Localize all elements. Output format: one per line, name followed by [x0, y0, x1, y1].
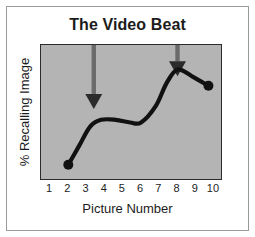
x-tick-label: 10: [207, 182, 219, 194]
arrow-head: [85, 94, 102, 109]
data-line: [68, 69, 208, 164]
x-tick-label: 9: [192, 182, 198, 194]
y-axis-label: % Recalling Image: [17, 58, 32, 166]
x-tick-label: 2: [64, 182, 70, 194]
x-tick-label: 5: [119, 182, 125, 194]
x-tick-label: 3: [82, 182, 88, 194]
arrow-shaft: [175, 45, 179, 61]
data-point-marker: [63, 160, 73, 170]
data-line-group: [63, 69, 213, 169]
chart-figure: The Video Beat % Recalling Image 1234567…: [0, 0, 255, 237]
data-point-marker: [203, 81, 213, 91]
x-tick-label: 6: [137, 182, 143, 194]
plot-area: [40, 44, 222, 180]
y-axis-label-container: % Recalling Image: [14, 44, 34, 180]
x-axis-tick-labels: 12345678910: [40, 182, 222, 198]
x-tick-label: 8: [173, 182, 179, 194]
arrow-shaft: [92, 45, 96, 94]
chart-title: The Video Beat: [0, 16, 255, 34]
x-tick-label: 7: [155, 182, 161, 194]
x-axis-label: Picture Number: [0, 201, 255, 216]
plot-canvas: [41, 45, 223, 181]
x-tick-label: 4: [101, 182, 107, 194]
beat-arrow-left-icon: [85, 45, 102, 109]
x-tick-label: 1: [46, 182, 52, 194]
